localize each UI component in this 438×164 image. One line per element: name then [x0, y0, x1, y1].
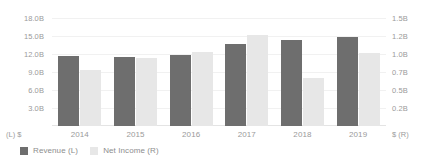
- bar-net-income[interactable]: [359, 53, 380, 126]
- left-axis-tick: 6.0B: [2, 86, 48, 95]
- right-axis-tick: 0.5B: [388, 86, 434, 95]
- bar-net-income[interactable]: [80, 70, 101, 126]
- bar-revenue[interactable]: [281, 40, 302, 126]
- legend-label: Net Income (R): [103, 146, 159, 155]
- category-label: 2015: [111, 130, 159, 139]
- category-label: 2018: [278, 130, 326, 139]
- plot-area: [52, 18, 386, 126]
- bar-group: [167, 18, 215, 126]
- left-axis-tick: 9.0B: [2, 68, 48, 77]
- revenue-net-income-bar-chart: 18.0B 15.0B 12.0B 9.0B 6.0B 3.0B 1.5B 1.…: [0, 0, 438, 164]
- right-axis-tick: 1.2B: [388, 32, 434, 41]
- right-axis-unit-caption: $ (R): [392, 130, 409, 139]
- left-axis-tick: 12.0B: [2, 50, 48, 59]
- right-axis-tick: 0.2B: [388, 104, 434, 113]
- legend-item[interactable]: Net Income (R): [90, 146, 159, 155]
- bar-revenue[interactable]: [225, 44, 246, 126]
- right-axis-tick: 0.7B: [388, 68, 434, 77]
- category-label: 2017: [223, 130, 271, 139]
- category-label: 2016: [167, 130, 215, 139]
- chart-legend: Revenue (L)Net Income (R): [20, 146, 159, 155]
- right-axis: 1.5B 1.2B 1.0B 0.7B 0.5B 0.2B: [388, 18, 434, 126]
- legend-item[interactable]: Revenue (L): [20, 146, 78, 155]
- bar-group: [334, 18, 382, 126]
- bar-revenue[interactable]: [114, 57, 135, 126]
- bar-net-income[interactable]: [136, 58, 157, 126]
- bar-group: [111, 18, 159, 126]
- left-axis-tick: 18.0B: [2, 14, 48, 23]
- bar-revenue[interactable]: [170, 55, 191, 126]
- bar-group: [278, 18, 326, 126]
- right-axis-tick: 1.5B: [388, 14, 434, 23]
- bar-revenue[interactable]: [58, 56, 79, 126]
- bar-group: [56, 18, 104, 126]
- left-axis-tick: 15.0B: [2, 32, 48, 41]
- bar-net-income[interactable]: [247, 35, 268, 126]
- bar-net-income[interactable]: [303, 78, 324, 126]
- legend-swatch-icon: [90, 147, 98, 155]
- legend-swatch-icon: [20, 147, 28, 155]
- category-axis-labels: 201420152016201720182019: [52, 130, 386, 139]
- category-label: 2014: [56, 130, 104, 139]
- legend-label: Revenue (L): [33, 146, 78, 155]
- bar-net-income[interactable]: [192, 52, 213, 126]
- left-axis-unit-caption: (L) $: [6, 130, 21, 139]
- left-axis-tick: 3.0B: [2, 104, 48, 113]
- bar-revenue[interactable]: [337, 37, 358, 126]
- left-axis: 18.0B 15.0B 12.0B 9.0B 6.0B 3.0B: [2, 18, 48, 126]
- bar-group: [223, 18, 271, 126]
- right-axis-tick: 1.0B: [388, 50, 434, 59]
- category-label: 2019: [334, 130, 382, 139]
- bar-groups: [52, 18, 386, 126]
